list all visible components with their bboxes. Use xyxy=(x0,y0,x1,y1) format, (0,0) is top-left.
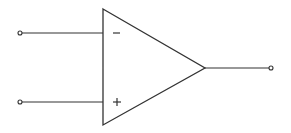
non-inverting-input-terminal xyxy=(18,100,22,104)
opamp-triangle xyxy=(103,9,205,125)
non-inverting-input xyxy=(18,100,103,104)
opamp-diagram xyxy=(0,0,291,133)
output xyxy=(205,66,273,70)
inverting-input xyxy=(18,31,103,35)
inverting-input-terminal xyxy=(18,31,22,35)
output-terminal xyxy=(269,66,273,70)
